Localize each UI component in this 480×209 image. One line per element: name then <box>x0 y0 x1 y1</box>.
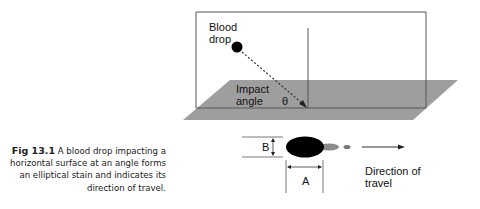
direction-label-1: Direction of <box>365 165 421 177</box>
theta-symbol: θ <box>282 95 288 107</box>
elliptical-stain <box>286 137 324 158</box>
a-dimension-label: A <box>302 175 309 187</box>
b-dimension-label: B <box>262 141 269 153</box>
a-arrowhead-right <box>318 165 322 169</box>
blood-drop-label-2: drop <box>209 33 231 45</box>
b-arrowhead-top <box>271 138 275 142</box>
b-arrowhead-bottom <box>271 152 275 156</box>
blood-drop-label-1: Blood <box>209 21 237 33</box>
a-arrowhead-left <box>287 165 291 169</box>
impact-angle-label-2: angle <box>236 95 263 107</box>
impact-angle-label-1: Impact <box>236 83 269 95</box>
satellite-spatter <box>344 145 351 149</box>
direction-label-2: travel <box>365 177 392 189</box>
direction-arrowhead <box>398 145 405 150</box>
figure-caption: Fig 13.1 A blood drop impacting a horizo… <box>4 145 166 194</box>
figure-number: Fig 13.1 <box>12 145 55 156</box>
horizontal-surface <box>183 80 458 120</box>
blood-drop <box>232 42 243 53</box>
